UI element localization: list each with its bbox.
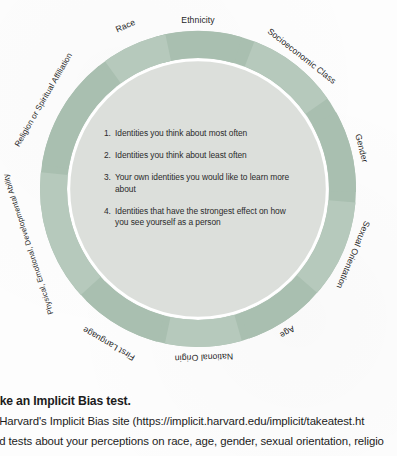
bottom-line-1: t Harvard's Implicit Bias site (https://… xyxy=(0,415,364,427)
segment-label: Race xyxy=(114,17,137,35)
center-list-item-number: 4. xyxy=(104,206,115,228)
center-list-item: 1.Identities you think about most often xyxy=(104,128,300,139)
center-list-item: 4.Identities that have the strongest eff… xyxy=(104,206,300,228)
center-list-item-text: Identities you think about most often xyxy=(115,128,300,139)
segment-label: Age xyxy=(278,324,297,341)
center-list-item: 3.Your own identities you would like to … xyxy=(104,172,300,194)
center-list-item-number: 3. xyxy=(104,172,115,194)
center-question-list: 1.Identities you think about most often2… xyxy=(104,128,300,239)
bottom-heading: ake an Implicit Bias test. xyxy=(0,394,131,408)
center-list-item-text: Identities that have the strongest effec… xyxy=(115,206,300,228)
center-list-item-number: 2. xyxy=(104,150,115,161)
segment-label: National Origin xyxy=(174,352,233,364)
center-list-item-text: Your own identities you would like to le… xyxy=(115,172,300,194)
center-list-item-number: 1. xyxy=(104,128,115,139)
segment-label: Ethnicity xyxy=(181,15,215,25)
wheel-segment[interactable] xyxy=(165,315,242,347)
segment-label: Gender xyxy=(353,133,370,164)
center-list-item: 2.Identities you think about least often xyxy=(104,150,300,161)
center-list-item-text: Identities you think about least often xyxy=(115,150,300,161)
scanned-page: EthnicitySocioeconomic ClassGenderSexual… xyxy=(0,0,397,456)
bottom-line-2: nd tests about your perceptions on race,… xyxy=(0,435,384,447)
